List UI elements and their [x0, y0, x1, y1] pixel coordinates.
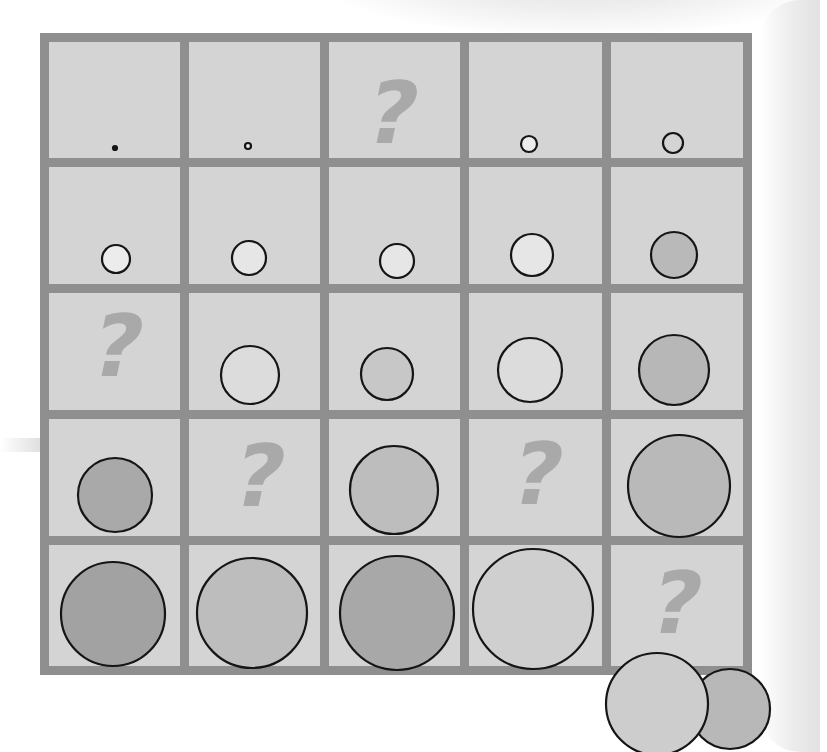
- frame-right: [743, 33, 752, 675]
- circle-icon: [380, 244, 414, 278]
- grid-cell-r3-c2: [221, 346, 279, 404]
- circle-icon: [639, 335, 709, 405]
- circle-icon: [361, 348, 413, 400]
- circle-icon: [511, 234, 553, 276]
- circle-icon: [232, 241, 266, 275]
- circle-icon: [521, 136, 537, 152]
- circle-icon: [113, 146, 117, 150]
- circle-icon: [61, 562, 165, 666]
- option-circle-large-icon[interactable]: [606, 653, 708, 752]
- grid-cell-r1-c1: [113, 146, 117, 150]
- grid-cell-r3-c4: [498, 338, 562, 402]
- circle-icon: [102, 245, 130, 273]
- grid-cell-r4-c1: [78, 458, 152, 532]
- grid-cell-r5-c1: [61, 562, 165, 666]
- grid-cell-r2-c5: [651, 232, 697, 278]
- frame-left: [40, 33, 49, 675]
- grid-cell-r4-c3: [350, 446, 438, 534]
- grid-cell-r1-c5: [663, 133, 683, 153]
- circle-icon: [340, 556, 454, 670]
- grid-cell-r5-c2: [197, 558, 307, 668]
- circle-icon: [221, 346, 279, 404]
- grid-cell-r2-c1: [102, 245, 130, 273]
- grid-cell-r1-c2: [245, 143, 251, 149]
- column-divider: [460, 33, 469, 675]
- column-divider: [602, 33, 611, 675]
- circle-icon: [651, 232, 697, 278]
- circle-icon: [628, 435, 730, 537]
- column-divider: [180, 33, 189, 675]
- grid-cell-r5-c4: [473, 549, 593, 669]
- grid-cell-r4-c5: [628, 435, 730, 537]
- grid-cell-r2-c2: [232, 241, 266, 275]
- row-divider: [40, 536, 752, 545]
- circle-icon: [498, 338, 562, 402]
- column-divider: [320, 33, 329, 675]
- circle-icon: [245, 143, 251, 149]
- grid-cell-r5-c3: [340, 556, 454, 670]
- circle-icon: [350, 446, 438, 534]
- grid-cell-r3-c3: [361, 348, 413, 400]
- grid-cell-r1-c4: [521, 136, 537, 152]
- frame-top: [40, 33, 752, 42]
- circle-icon: [663, 133, 683, 153]
- grid-cell-r3-c5: [639, 335, 709, 405]
- row-divider: [40, 410, 752, 419]
- grid-cell-r2-c4: [511, 234, 553, 276]
- grid-cell-r2-c3: [380, 244, 414, 278]
- circle-icon: [78, 458, 152, 532]
- circle-icon: [197, 558, 307, 668]
- circle-icon: [473, 549, 593, 669]
- row-divider: [40, 284, 752, 293]
